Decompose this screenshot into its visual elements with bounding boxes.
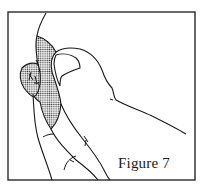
breast-outline <box>37 13 46 36</box>
finger-line <box>51 129 98 180</box>
finger-crease <box>43 134 54 137</box>
figure-caption: Figure 7 <box>118 155 170 172</box>
nipple <box>20 63 40 97</box>
illustration <box>0 0 205 187</box>
thumbnail <box>54 54 80 86</box>
figure-panel: Figure 7 <box>0 0 205 187</box>
knuckle-mark <box>110 99 113 100</box>
